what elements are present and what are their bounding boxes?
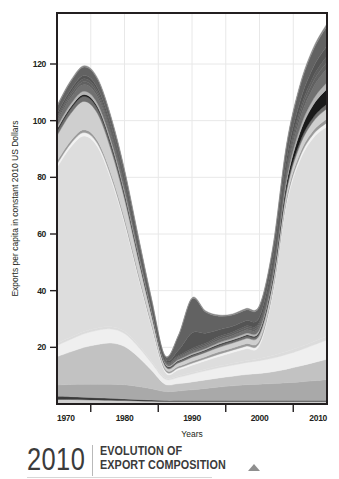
caption-underline	[27, 477, 212, 478]
figure-caption: 2010 EVOLUTION OF EXPORT COMPOSITION	[27, 444, 327, 478]
triangle-up-icon	[248, 464, 260, 471]
x-axis-title: Years	[181, 429, 202, 439]
y-tick-label: 120	[33, 59, 47, 69]
stacked-area-chart: 2040608010012019701980199020002010YearsE…	[0, 0, 339, 440]
caption-year: 2010	[27, 444, 87, 475]
caption-divider	[92, 445, 93, 476]
x-tick-label: 2000	[251, 413, 269, 423]
x-tick-label: 1970	[57, 413, 75, 423]
y-tick-label: 80	[37, 172, 46, 182]
caption-title-row-2: EXPORT COMPOSITION	[100, 459, 260, 473]
y-tick-label: 100	[33, 116, 47, 126]
right-mask	[328, 0, 339, 440]
left-mask	[0, 0, 57, 440]
x-tick-label: 1980	[116, 413, 134, 423]
caption-title-line-2: EXPORT COMPOSITION	[100, 459, 226, 473]
y-tick-label: 20	[37, 342, 46, 352]
y-axis-title: Exports per capita in constant 2010 US D…	[10, 120, 20, 296]
caption-title-line-1: EVOLUTION OF	[100, 445, 244, 459]
x-tick-label: 2010	[309, 413, 327, 423]
y-tick-label: 40	[37, 286, 46, 296]
chart-figure: 2040608010012019701980199020002010YearsE…	[0, 0, 339, 479]
y-tick-label: 60	[37, 229, 46, 239]
x-tick-label: 1990	[183, 413, 201, 423]
caption-title-block: EVOLUTION OF EXPORT COMPOSITION	[100, 444, 260, 472]
